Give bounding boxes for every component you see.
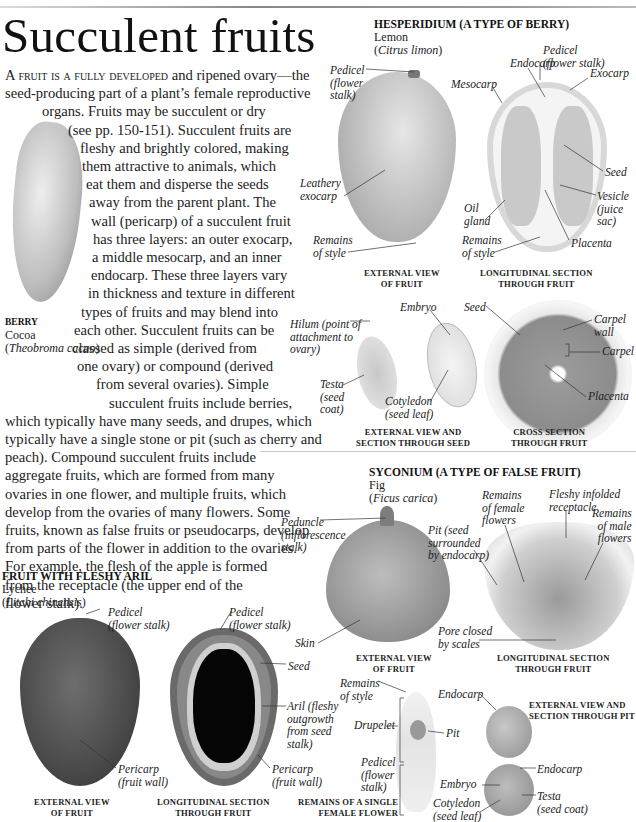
aril-heading: FRUIT WITH FLESHY ARIL Lychee (Litchi ch… <box>2 570 152 609</box>
lemon-section-illustration <box>487 82 607 252</box>
lemon-pedicel <box>408 70 420 78</box>
intro-lead: A fruit is a fully developed <box>5 67 168 83</box>
label-pedicel-lychee-sec: Pedicel(flower stalk) <box>229 606 291 631</box>
label-hilum: Hilum (point ofattachment toovary) <box>290 318 361 356</box>
pit-section-illustration <box>484 764 534 816</box>
label-placenta: Placenta <box>571 237 612 250</box>
label-vesicle: Vesicle(juicesac) <box>597 190 629 228</box>
caption-lemon-external: EXTERNAL VIEWOF FRUIT <box>364 268 440 290</box>
label-cotyledon-pit: Cotyledon(seed leaf) <box>433 797 481 822</box>
label-pedicel-lemon-sec: Pedicel(flower stalk) <box>543 44 605 69</box>
caption-lemon-cross: CROSS SECTIONTHROUGH FRUIT <box>511 427 587 449</box>
label-remains-female: Remainsof femaleflowers <box>482 489 524 527</box>
label-pedicel-lychee-ext: Pedicel(flower stalk) <box>108 606 170 631</box>
label-pedicel-drupelet: Pedicel(flowerstalk) <box>361 756 395 794</box>
label-exocarp: Exocarp <box>590 67 629 80</box>
label-seed-lychee: Seed <box>288 660 310 673</box>
label-mesocarp: Mesocarp <box>451 78 497 91</box>
label-placenta-cross: Placenta <box>588 390 629 403</box>
berry-caption: BERRY Cocoa (Theobroma cacao) <box>5 316 100 355</box>
label-pedicel-lemon-ext: Pedicel(flowerstalk) <box>330 64 364 102</box>
label-testa: Testa(seedcoat) <box>320 378 344 416</box>
lychee-section-illustration <box>170 628 278 786</box>
label-carpel-wall: Carpelwall <box>594 313 626 338</box>
label-remains-style-sec: Remainsof style <box>462 234 502 259</box>
label-peduncle: Peduncle(inflorescencestalk) <box>281 516 346 554</box>
page-title: Succulent fruits <box>2 10 316 62</box>
label-cotyledon-seed: Cotyledon(seed leaf) <box>385 395 433 420</box>
caption-single-female-flower: REMAINS OF A SINGLEFEMALE FLOWER <box>298 797 398 819</box>
label-pore: Pore closedby scales <box>438 625 492 650</box>
label-pericarp-sec: Pericarp(fruit wall) <box>272 763 322 788</box>
label-endocarp-pit-bot: Endocarp <box>537 763 582 776</box>
label-remains-style-drupelet: Remainsof style <box>340 677 380 702</box>
label-remains-style-ext: Remainsof style <box>313 234 353 259</box>
label-pit-fig: Pit (seedsurroundedby endocarp) <box>428 524 489 562</box>
label-testa-pit: Testa(seed coat) <box>537 790 588 815</box>
pit-external-illustration <box>486 706 532 758</box>
label-endocarp-pit-top: Endocarp <box>438 688 483 701</box>
drupelet-pit <box>410 720 426 740</box>
label-embryo-pit: Embryo <box>440 778 476 791</box>
label-carpel: Carpel <box>602 345 634 358</box>
fig-peduncle <box>380 506 394 526</box>
label-skin: Skin <box>295 637 315 650</box>
label-seed-lemon: Seed <box>605 166 627 179</box>
caption-fig-external: EXTERNAL VIEWOF FRUIT <box>356 653 432 675</box>
caption-lychee-longitudinal: LONGITUDINAL SECTIONTHROUGH FRUIT <box>157 797 270 819</box>
label-leathery-exocarp: Leatheryexocarp <box>300 177 341 202</box>
label-seed-cross: Seed <box>464 301 486 314</box>
lychee-external-illustration <box>20 618 140 786</box>
label-pit-drupelet: Pit <box>446 727 459 740</box>
label-remains-male: Remainsof maleflowers <box>592 507 632 545</box>
caption-seed: EXTERNAL VIEW ANDSECTION THROUGH SEED <box>356 427 470 449</box>
label-aril: Aril (fleshyoutgrowthfrom seedstalk) <box>287 700 338 750</box>
caption-lychee-external: EXTERNAL VIEWOF FRUIT <box>34 797 110 819</box>
drupelet-illustration <box>396 692 436 812</box>
label-embryo-seed: Embryo <box>400 301 436 314</box>
label-pericarp-ext: Pericarp(fruit wall) <box>118 763 168 788</box>
label-drupelet: Drupelet <box>354 719 395 732</box>
caption-pit: EXTERNAL VIEW ANDSECTION THROUGH PIT <box>529 700 635 722</box>
caption-fig-longitudinal: LONGITUDINAL SECTIONTHROUGH FRUIT <box>497 653 610 675</box>
caption-lemon-longitudinal: LONGITUDINAL SECTIONTHROUGH FRUIT <box>480 268 593 290</box>
label-oil-gland: Oilgland <box>464 202 490 227</box>
hesperidium-heading: HESPERIDIUM (A TYPE OF BERRY) Lemon (Cit… <box>374 18 569 57</box>
